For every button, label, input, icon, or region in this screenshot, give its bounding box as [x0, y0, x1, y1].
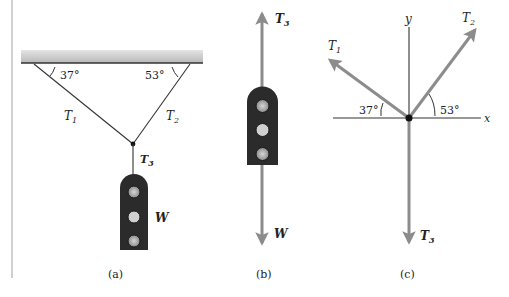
angle-arc-left [50, 67, 55, 76]
panel-b: T3 W (b) [247, 12, 290, 281]
panel-c: y x T1 T2 T3 37° 53° (c) [328, 11, 491, 281]
label-weight-b: W [274, 227, 289, 241]
label-t1-a: T1 [64, 109, 77, 125]
traffic-light-weight-b [247, 87, 278, 166]
angle-label-53-a: 53° [145, 69, 165, 82]
rope-t1 [34, 64, 133, 144]
caption-b: (b) [256, 268, 272, 281]
label-t3-c: T3 [420, 229, 435, 245]
label-weight-a: W [155, 211, 170, 225]
label-y-axis: y [404, 12, 412, 26]
angle-arc-right [172, 67, 178, 77]
label-t3-a: T3 [140, 153, 154, 168]
angle-label-37-c: 37° [359, 104, 379, 117]
caption-c: (c) [400, 268, 415, 281]
label-t2-c: T2 [462, 11, 475, 27]
panel-a: 37° 53° T1 T2 T3 W (a) [21, 50, 203, 281]
angle-arc-53 [429, 94, 435, 116]
label-t3-b: T3 [275, 12, 290, 28]
figure-svg: 37° 53° T1 T2 T3 W (a) T3 W (b) [0, 0, 509, 297]
label-x-axis: x [484, 112, 491, 125]
angle-label-37-a: 37° [60, 69, 80, 82]
label-t1-c: T1 [328, 39, 341, 55]
caption-a: (a) [108, 268, 123, 281]
free-body-diagram-figure: 37° 53° T1 T2 T3 W (a) T3 W (b) [0, 0, 509, 297]
angle-arc-37 [381, 103, 383, 116]
label-t2-a: T2 [166, 109, 179, 125]
ceiling [21, 50, 203, 63]
origin-point [406, 115, 413, 122]
traffic-light-weight-a [120, 174, 148, 250]
angle-label-53-c: 53° [440, 104, 460, 117]
